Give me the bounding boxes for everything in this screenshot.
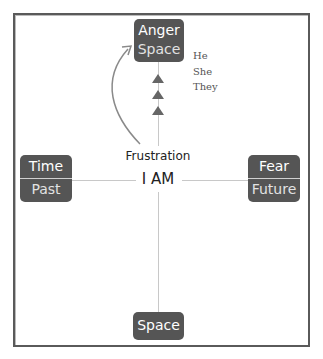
fear-future-box: Fear Future (248, 155, 300, 202)
anger-space-box: Anger Space (134, 19, 184, 62)
pronoun-she: She (193, 64, 218, 80)
pronoun-list: He She They (193, 48, 218, 95)
box-subtitle: Space (134, 40, 184, 59)
box-subtitle: Past (20, 180, 72, 199)
frustration-label: Frustration (108, 149, 208, 163)
space-bottom-box: Space (133, 312, 184, 340)
pronoun-he: He (193, 48, 218, 64)
box-title: Space (133, 316, 184, 335)
i-am-label: I AM (128, 170, 188, 188)
box-title: Anger (134, 21, 184, 40)
box-divider (248, 178, 300, 179)
pronoun-they: They (193, 79, 218, 95)
box-title: Time (20, 157, 72, 176)
box-subtitle: Future (248, 180, 300, 199)
box-title: Fear (248, 157, 300, 176)
box-divider (20, 178, 72, 179)
time-past-box: Time Past (20, 155, 72, 202)
